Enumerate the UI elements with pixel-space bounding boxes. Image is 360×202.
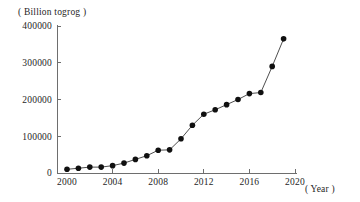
data-point [110, 163, 116, 169]
data-point [87, 164, 93, 170]
data-point [144, 153, 150, 159]
data-point [201, 111, 207, 117]
axis-tick-marks [57, 26, 295, 173]
y-tick-label: 0 [47, 168, 52, 178]
data-point [269, 64, 275, 70]
data-point [121, 160, 127, 166]
y-tick-label: 300000 [22, 58, 52, 68]
line-chart: ( Billion togrog ) 010000020000030000040… [0, 0, 360, 202]
x-axis-tick-labels: 200020042008201220162020 [57, 177, 305, 187]
y-tick-label: 400000 [22, 21, 52, 31]
data-point [224, 102, 230, 108]
x-tick-label: 2004 [103, 177, 123, 187]
data-point [76, 165, 82, 171]
data-point [235, 97, 241, 103]
data-point [190, 122, 196, 128]
data-point [212, 107, 218, 113]
x-tick-label: 2012 [194, 177, 214, 187]
x-tick-label: 2016 [239, 177, 259, 187]
data-point [247, 91, 253, 97]
x-tick-label: 2020 [285, 177, 305, 187]
x-axis-caption: ( Year ) [305, 184, 335, 195]
data-point [258, 90, 264, 96]
x-tick-label: 2000 [57, 177, 77, 187]
data-point [155, 147, 161, 153]
data-point [281, 36, 287, 42]
data-point [98, 164, 104, 170]
data-point [133, 157, 139, 163]
chart-container: ( Billion togrog ) 010000020000030000040… [0, 0, 360, 202]
y-tick-label: 200000 [22, 95, 52, 105]
series-line-total [67, 39, 284, 169]
y-tick-label: 100000 [22, 132, 52, 142]
data-point [167, 147, 173, 153]
data-point [64, 167, 70, 173]
data-point [178, 136, 184, 142]
y-axis-tick-labels: 0100000200000300000400000 [22, 21, 52, 178]
x-tick-label: 2008 [148, 177, 168, 187]
series-data-points [64, 36, 286, 172]
y-axis-caption: ( Billion togrog ) [18, 7, 86, 18]
